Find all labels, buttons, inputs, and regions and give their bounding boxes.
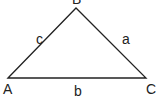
side-b-label: b	[74, 83, 82, 99]
vertex-a-label: A	[3, 81, 13, 97]
side-c-label: c	[36, 31, 43, 47]
vertex-c-label: C	[146, 81, 156, 97]
triangle-diagram: B A C c a b	[0, 0, 158, 102]
side-a-label: a	[122, 31, 130, 47]
vertex-b-label: B	[72, 0, 81, 7]
